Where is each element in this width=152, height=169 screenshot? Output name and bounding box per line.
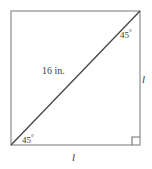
right-angle-marker-icon: [132, 137, 140, 145]
angle-label-bottom-left: 45°: [22, 136, 34, 145]
degree-symbol-top-right: °: [129, 28, 132, 36]
geometry-figure: 16 in. 45° 45° l l: [0, 0, 152, 169]
side-length-label-bottom: l: [72, 152, 75, 163]
angle-value-top-right: 45: [120, 30, 129, 40]
hypotenuse-length-label: 16 in.: [42, 66, 65, 76]
angle-label-top-right: 45°: [120, 31, 132, 40]
side-length-label-right: l: [142, 74, 145, 85]
degree-symbol-bottom-left: °: [31, 133, 34, 141]
angle-value-bottom-left: 45: [22, 135, 31, 145]
